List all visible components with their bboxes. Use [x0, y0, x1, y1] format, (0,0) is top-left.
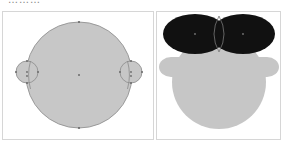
caption-cutoff: ………	[0, 0, 282, 6]
rendered-drawing	[157, 12, 282, 141]
rendered-panel	[156, 11, 281, 140]
construction-panel	[2, 11, 154, 140]
construction-drawing	[3, 12, 155, 141]
caption-text: ………	[8, 0, 41, 5]
